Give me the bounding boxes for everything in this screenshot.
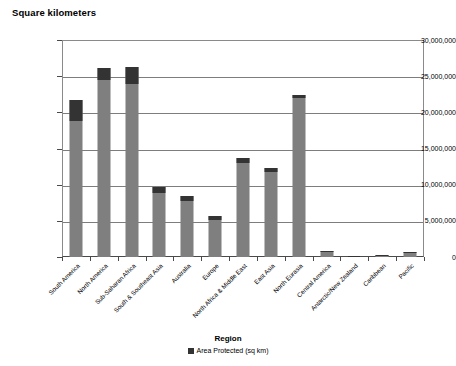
bar-segment-protected [236,158,249,163]
bar-slot [285,40,313,257]
bar-segment-protected [69,100,82,121]
bar-segment-protected [181,196,194,201]
x-axis-tick-mark [424,257,425,261]
bar-slot [90,40,118,257]
bar-slot [201,40,229,257]
bar-segment-protected [376,255,389,256]
bar-slot [257,40,285,257]
x-axis-tick-mark [313,257,314,261]
bar [69,100,82,257]
x-axis-tick-mark [340,257,341,261]
bar-slot [62,40,90,257]
bar-segment-protected [209,216,222,220]
bar [236,158,249,257]
bar-slot [173,40,201,257]
x-axis-tick-mark [173,257,174,261]
bar-chart: Square kilometers 30,000,00025,000,00020… [0,0,456,366]
bar-slot [368,40,396,257]
bar-slot [229,40,257,257]
bar-segment-protected [153,187,166,193]
x-axis-tick-mark [285,257,286,261]
bar-segment-protected [292,95,305,98]
bar-segment-protected [97,68,110,80]
bar [125,67,138,257]
bars-layer [62,40,424,257]
bar [348,256,361,257]
x-axis-tick-mark [257,257,258,261]
bar-segment-protected [348,256,361,257]
bar [376,255,389,257]
x-axis-tick-mark [201,257,202,261]
x-axis-tick-mark [146,257,147,261]
x-axis-tick-mark [62,257,63,261]
bar-segment-protected [125,67,138,84]
bar-slot [146,40,174,257]
x-axis-tick-mark [118,257,119,261]
bar [153,187,166,257]
y-axis-title: Square kilometers [12,7,96,18]
bar-segment-protected [320,251,333,252]
bar [97,68,110,258]
bar [320,251,333,258]
bar-slot [313,40,341,257]
bar-slot [396,40,424,257]
x-axis-tick-mark [396,257,397,261]
bar-slot [118,40,146,257]
bar [404,252,417,257]
bar-segment-protected [404,252,417,253]
legend-label: Area Protected (sq km) [197,347,269,355]
x-axis-tick-mark [229,257,230,261]
bar [209,216,222,257]
legend-swatch-icon [188,348,194,354]
bar [264,168,277,257]
bar [181,196,194,257]
x-axis-title: Region [0,334,456,343]
bar-segment-protected [264,168,277,172]
x-axis-tick-mark [90,257,91,261]
bar-slot [340,40,368,257]
bar [292,95,305,257]
x-axis-tick-mark [368,257,369,261]
chart-legend: Area Protected (sq km) [0,347,456,355]
